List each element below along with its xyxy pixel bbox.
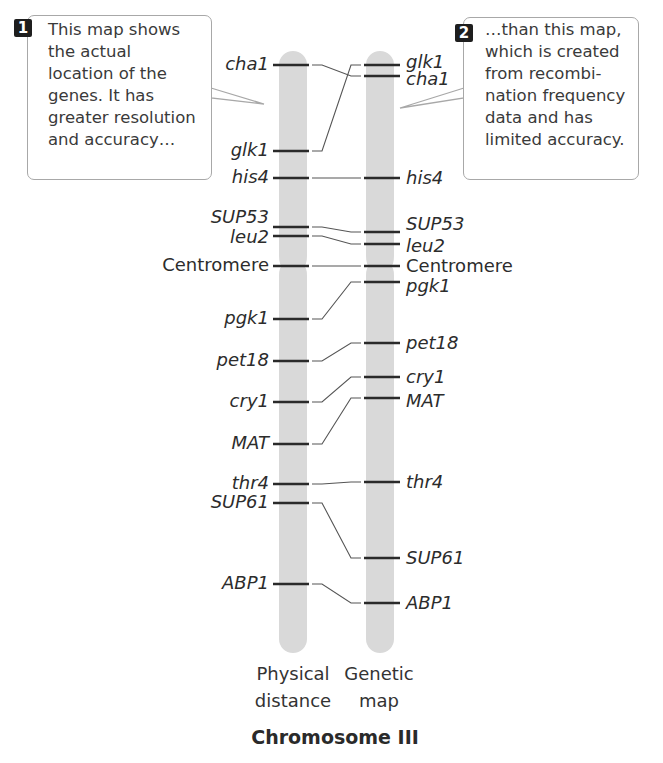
callout-physical-text: This map shows the actual location of th… bbox=[48, 19, 196, 151]
callout-physical-map: This map shows the actual location of th… bbox=[27, 15, 212, 180]
connector-pgk1 bbox=[312, 282, 361, 319]
connector-mat bbox=[312, 398, 361, 444]
physical-chromosome bbox=[279, 51, 307, 653]
connector-pet18 bbox=[312, 343, 361, 361]
diagram-title: Chromosome III bbox=[215, 726, 455, 748]
physical-label-mat: MAT bbox=[231, 434, 269, 452]
connector-leu2 bbox=[312, 236, 361, 244]
physical-label-cha1: cha1 bbox=[225, 55, 269, 73]
genetic-label-sup53: SUP53 bbox=[406, 215, 464, 233]
genetic-label-his4: his4 bbox=[406, 169, 443, 187]
genetic-label-thr4: thr4 bbox=[406, 473, 443, 491]
chromosome-map-diagram: cha1glk1his4SUP53leu2Centromerepgk1pet18… bbox=[0, 0, 663, 763]
genetic-label-cha1: cha1 bbox=[406, 70, 450, 88]
connector-glk1 bbox=[312, 65, 361, 151]
callout-2-pointer bbox=[400, 88, 464, 108]
connector-cha1 bbox=[312, 65, 361, 76]
genetic-label-pgk1: pgk1 bbox=[406, 277, 451, 295]
genetic-label-centromere: Centromere bbox=[406, 257, 513, 275]
callout-genetic-text: …than this map, which is created from re… bbox=[485, 19, 625, 151]
callout-1-pointer bbox=[211, 88, 264, 104]
physical-distance-label: Physical distance bbox=[240, 660, 346, 714]
callout-genetic-map: …than this map, which is created from re… bbox=[463, 17, 639, 180]
physical-label-sup61: SUP61 bbox=[211, 493, 269, 511]
connector-sup53 bbox=[312, 227, 361, 232]
physical-label-pet18: pet18 bbox=[217, 351, 269, 369]
connector-sup61 bbox=[312, 503, 361, 558]
physical-label-sup53: SUP53 bbox=[211, 208, 269, 226]
genetic-label-mat: MAT bbox=[406, 392, 444, 410]
genetic-label-cry1: cry1 bbox=[406, 368, 445, 386]
physical-label-leu2: leu2 bbox=[230, 228, 269, 246]
genetic-label-sup61: SUP61 bbox=[406, 549, 464, 567]
physical-label-glk1: glk1 bbox=[231, 141, 269, 159]
connector-lines bbox=[312, 65, 361, 603]
physical-label-cry1: cry1 bbox=[230, 392, 269, 410]
genetic-label-pet18: pet18 bbox=[406, 334, 458, 352]
genetic-label-abp1: ABP1 bbox=[406, 594, 453, 612]
physical-label-his4: his4 bbox=[232, 168, 269, 186]
physical-label-abp1: ABP1 bbox=[222, 574, 269, 592]
connector-thr4 bbox=[312, 482, 361, 484]
callout-badge-2: 2 bbox=[455, 24, 473, 42]
genetic-map-label: Genetic map bbox=[336, 660, 422, 714]
genetic-label-leu2: leu2 bbox=[406, 237, 445, 255]
connector-abp1 bbox=[312, 584, 361, 603]
physical-label-pgk1: pgk1 bbox=[224, 309, 269, 327]
physical-label-thr4: thr4 bbox=[232, 474, 269, 492]
physical-label-centromere: Centromere bbox=[162, 256, 269, 274]
genetic-chromosome bbox=[366, 51, 394, 653]
callout-badge-1: 1 bbox=[14, 19, 32, 37]
